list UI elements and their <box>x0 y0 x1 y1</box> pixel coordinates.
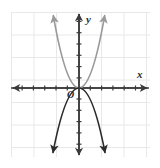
grid-panel <box>12 12 150 157</box>
grid <box>12 12 151 157</box>
graph-figure: y x O <box>0 0 160 168</box>
y-axis-label: y <box>84 13 91 25</box>
x-axis-label: x <box>136 68 143 80</box>
origin-label: O <box>67 89 74 100</box>
coordinate-plane-svg: y x O <box>0 0 160 168</box>
